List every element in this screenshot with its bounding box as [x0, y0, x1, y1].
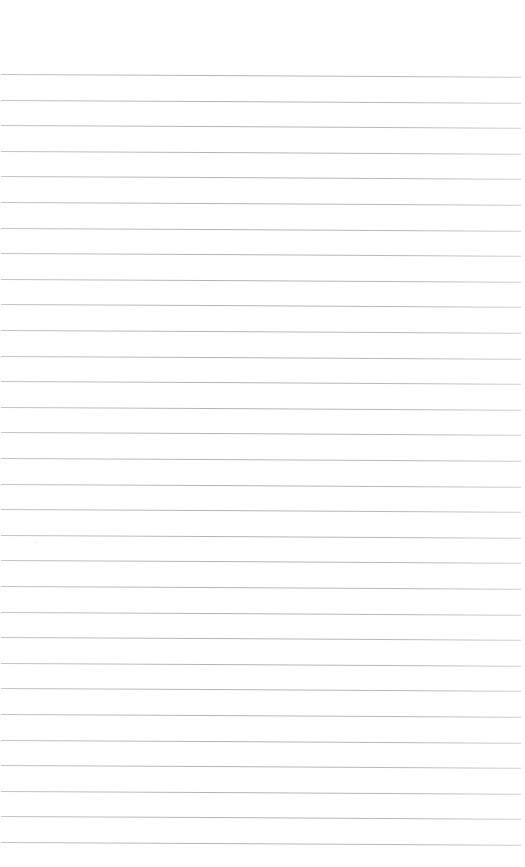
- ruled-line: [1, 509, 521, 513]
- ruled-line: [1, 714, 521, 718]
- ruled-line: [1, 125, 521, 129]
- ruled-line: [1, 279, 521, 283]
- ruled-line: [1, 432, 521, 436]
- ruled-line: [1, 484, 521, 488]
- ruled-line: [1, 560, 521, 564]
- ruled-line: [1, 458, 521, 462]
- ruled-line: [1, 791, 521, 795]
- ruled-line: [1, 612, 521, 616]
- ruled-line: [1, 100, 521, 104]
- ruled-line: [1, 842, 521, 846]
- ruled-line: [1, 202, 521, 206]
- ruled-line: [1, 407, 521, 411]
- ruled-line: [1, 253, 521, 257]
- scan-speck: [35, 542, 36, 543]
- ruled-line: [1, 765, 521, 769]
- ruled-line: [1, 74, 521, 78]
- ruled-line: [1, 740, 521, 744]
- ruled-line: [1, 381, 521, 385]
- ruled-line: [1, 304, 521, 308]
- ruled-line: [1, 228, 521, 232]
- ruled-line: [1, 356, 521, 360]
- ruled-line: [1, 151, 521, 155]
- ruled-line: [1, 586, 521, 590]
- ruled-line: [1, 330, 521, 334]
- ruled-line: [1, 535, 521, 539]
- ruled-line: [1, 176, 521, 180]
- ruled-line: [1, 637, 521, 641]
- ruled-line: [1, 816, 521, 820]
- lined-paper-page: [0, 0, 525, 867]
- ruled-line: [1, 688, 521, 692]
- ruled-line: [1, 663, 521, 667]
